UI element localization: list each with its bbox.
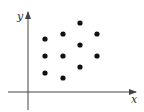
data-point bbox=[42, 36, 47, 41]
data-point bbox=[77, 20, 82, 25]
scatter-plot: x y bbox=[0, 0, 144, 112]
data-point bbox=[94, 53, 99, 58]
data-point bbox=[42, 70, 47, 75]
data-point bbox=[77, 64, 82, 69]
x-axis-label: x bbox=[131, 93, 138, 106]
data-point bbox=[60, 53, 65, 58]
data-point bbox=[94, 31, 99, 36]
data-point bbox=[42, 53, 47, 58]
data-points bbox=[42, 20, 99, 80]
data-point bbox=[60, 75, 65, 80]
data-point bbox=[77, 42, 82, 47]
y-axis-label: y bbox=[16, 10, 24, 23]
data-point bbox=[60, 31, 65, 36]
